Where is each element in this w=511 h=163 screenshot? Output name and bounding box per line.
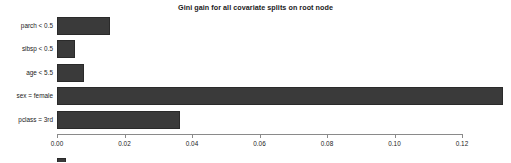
x-axis-tick [57,134,58,138]
bar-row [57,64,511,82]
legend-swatch-icon [57,158,66,163]
x-axis-tick [192,134,193,138]
y-axis-label: age < 5.5 [1,69,53,76]
bar-row [57,111,511,129]
x-axis-tick [395,134,396,138]
bar [57,87,503,105]
y-axis-label: parch < 0.5 [1,22,53,29]
chart-title: Gini gain for all covariate splits on ro… [0,3,511,12]
x-axis-tick-label: 0.02 [105,140,145,147]
x-axis-tick [260,134,261,138]
x-axis-tick [125,134,126,138]
gini-gain-bar-chart: Gini gain for all covariate splits on ro… [0,0,511,162]
chart-legend [57,157,70,162]
x-axis-tick [327,134,328,138]
bar [57,40,75,58]
x-axis-tick-label: 0.08 [307,140,347,147]
y-axis-label: sibsp < 0.5 [1,45,53,52]
y-axis-category-labels: parch < 0.5sibsp < 0.5age < 5.5sex = fem… [0,17,53,134]
y-axis-label: pclass = 3rd [1,116,53,123]
y-axis-label: sex = female [1,92,53,99]
x-axis-tick-label: 0.06 [240,140,280,147]
x-axis-tick [462,134,463,138]
bar-row [57,40,511,58]
bar [57,111,180,129]
bar-row [57,17,511,35]
x-axis-tick-label: 0.00 [37,140,77,147]
x-axis-tick-label: 0.04 [172,140,212,147]
bar-row [57,87,511,105]
x-axis-tick-label: 0.10 [375,140,415,147]
x-axis-tick-label: 0.12 [442,140,482,147]
bar [57,17,110,35]
plot-area [57,17,511,134]
bar [57,64,84,82]
